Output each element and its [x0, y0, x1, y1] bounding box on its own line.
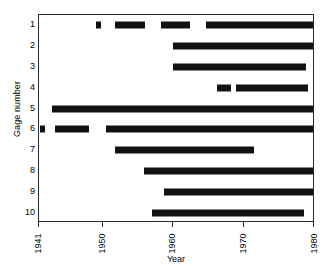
bar-gage-1-segment-1: [96, 22, 101, 29]
x-tick-label-1950: 1950: [97, 233, 106, 253]
bar-gage-6-segment-2: [55, 126, 89, 133]
y-axis-tick-labels: 12345678910: [16, 14, 35, 222]
y-tick-label-3: 3: [16, 62, 35, 71]
bar-gage-6-segment-1: [40, 126, 45, 133]
x-tick-label-1970: 1970: [239, 233, 248, 253]
y-tick-label-9: 9: [16, 186, 35, 195]
y-tick-label-5: 5: [16, 103, 35, 112]
bar-gage-6-segment-3: [106, 126, 314, 133]
plot-area: [38, 14, 314, 222]
bar-gage-4-segment-2: [236, 84, 307, 91]
y-tick-label-10: 10: [16, 207, 35, 216]
y-tick-label-7: 7: [16, 145, 35, 154]
y-tick-label-2: 2: [16, 41, 35, 50]
bar-gage-5-segment-1: [52, 105, 314, 112]
bar-gage-4-segment-1: [217, 84, 231, 91]
bar-gage-1-segment-2: [115, 22, 145, 29]
y-tick-label-8: 8: [16, 166, 35, 175]
x-tick-label-1960: 1960: [168, 233, 177, 253]
bar-gage-10-segment-1: [152, 209, 304, 216]
bar-gage-1-segment-3: [161, 22, 190, 29]
bar-gage-2-segment-1: [173, 43, 313, 50]
x-axis-tick-labels: 19411950196019701980: [38, 227, 314, 253]
y-tick-label-6: 6: [16, 124, 35, 133]
bar-gage-8-segment-1: [144, 168, 314, 175]
bar-gage-7-segment-1: [115, 147, 254, 154]
gage-record-chart: Gage number 12345678910 1941195019601970…: [0, 0, 325, 266]
bar-gage-9-segment-1: [164, 188, 314, 195]
bar-gage-3-segment-1: [173, 64, 306, 71]
bar-gage-1-segment-4: [206, 22, 314, 29]
x-tick-label-1980: 1980: [310, 233, 319, 253]
y-tick-label-4: 4: [16, 82, 35, 91]
x-tick-label-1941: 1941: [34, 233, 43, 253]
y-tick-label-1: 1: [16, 20, 35, 29]
x-axis-title: Year: [38, 254, 314, 264]
